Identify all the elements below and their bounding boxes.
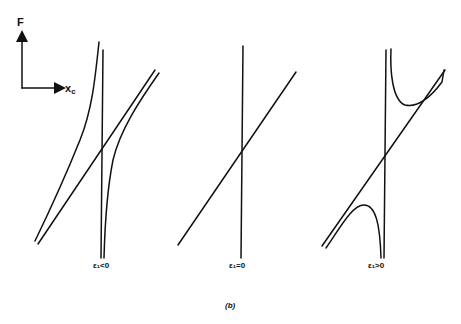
panel-label-positive: ε₁>0: [368, 261, 385, 270]
panel-zero: ε₁=0: [178, 46, 296, 270]
curve-lower-right: [104, 73, 159, 258]
diagonal-line: [322, 70, 445, 246]
vertical-line-a: [101, 50, 103, 258]
panel-label-zero: ε₁=0: [229, 261, 246, 270]
curve-upper-branch: [391, 49, 444, 106]
curve-upper-left: [35, 42, 99, 241]
panel-label-negative: ε₁<0: [93, 261, 110, 270]
diagonal-line: [178, 72, 296, 245]
panel-positive: ε₁>0: [322, 49, 445, 270]
f-axis-label: F: [17, 16, 24, 28]
figure-caption: (b): [225, 301, 236, 310]
curve-lower-branch: [326, 205, 381, 258]
panel-negative: ε₁<0: [35, 42, 159, 270]
diagonal-line: [38, 70, 155, 244]
axes-key: F xc: [17, 16, 76, 96]
xc-axis-label: xc: [65, 82, 76, 96]
diagram-canvas: F xc ε₁<0 ε₁=0 ε₁>0 (b): [0, 0, 461, 324]
